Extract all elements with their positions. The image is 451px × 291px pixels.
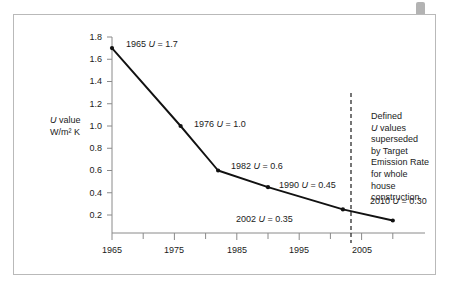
- x-tick-label-2005: 2005: [345, 245, 379, 255]
- note-line-6: for whole: [371, 169, 445, 181]
- note-line-1: Defined: [371, 111, 445, 123]
- point-label-2002: 2002 U = 0.35: [236, 214, 293, 225]
- y-axis-title-line2: W/m² K: [50, 127, 81, 139]
- note-line-7: house: [371, 181, 445, 193]
- data-point-2002: [341, 207, 345, 211]
- data-point-1976: [179, 124, 183, 128]
- y-tick-label-1.8: 1.8: [80, 32, 102, 42]
- data-point-2010: [391, 218, 395, 222]
- y-axis-ticks: [107, 37, 112, 215]
- note-line-8: construction: [371, 192, 445, 204]
- data-point-1990: [266, 185, 270, 189]
- note-line-5: Emission Rate: [371, 157, 445, 169]
- annotation-note: Defined U values superseded by Target Em…: [371, 111, 445, 204]
- y-tick-label-0.8: 0.8: [80, 143, 102, 153]
- y-tick-label-1.4: 1.4: [80, 76, 102, 86]
- chart-frame: 1.8 1.6 1.4 1.2 1.0 0.8 0.6 0.4 0.2 1965…: [13, 14, 436, 275]
- y-tick-label-1.2: 1.2: [80, 99, 102, 109]
- point-label-1965: 1965 U = 1.7: [126, 39, 178, 50]
- note-line-4: by Target: [371, 146, 445, 158]
- figure-root: 1.8 1.6 1.4 1.2 1.0 0.8 0.6 0.4 0.2 1965…: [0, 0, 451, 291]
- note-u-symbol: U: [371, 123, 378, 133]
- data-point-1982: [216, 168, 220, 172]
- y-axis-title-line1: U value: [50, 115, 81, 127]
- point-label-1982: 1982 U = 0.6: [231, 161, 283, 172]
- y-tick-label-0.4: 0.4: [80, 188, 102, 198]
- x-tick-label-1985: 1985: [220, 245, 254, 255]
- x-tick-label-1995: 1995: [282, 245, 316, 255]
- y-tick-label-0.6: 0.6: [80, 165, 102, 175]
- note-line-2: U values: [371, 123, 445, 135]
- y-tick-label-0.2: 0.2: [80, 210, 102, 220]
- y-axis-title-word: value: [57, 115, 81, 125]
- data-point-1965: [110, 46, 114, 50]
- y-tick-label-1.6: 1.6: [80, 54, 102, 64]
- u-value-series-points: [110, 46, 395, 223]
- note-line-3: superseded: [371, 134, 445, 146]
- y-axis-title: U value W/m² K: [50, 115, 81, 138]
- y-tick-label-1.0: 1.0: [80, 121, 102, 131]
- x-tick-label-1965: 1965: [95, 245, 129, 255]
- point-label-1990: 1990 U = 0.45: [279, 180, 336, 191]
- point-label-1976: 1976 U = 1.0: [194, 119, 246, 130]
- x-tick-label-1975: 1975: [157, 245, 191, 255]
